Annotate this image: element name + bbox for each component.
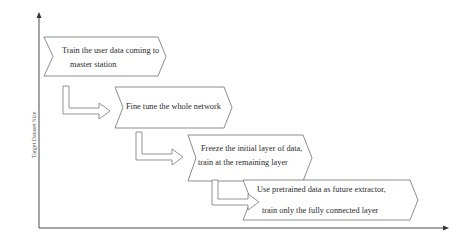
step-4-text-line1: Use pretrained data as future extractor, — [257, 186, 386, 194]
diagram-graphics — [0, 0, 465, 244]
step-3-text-line1: Freeze the initial layer of data, — [201, 145, 302, 153]
step-3-text-line2: train at the remaining layer — [198, 159, 288, 167]
y-axis-label: Target Dataset Size — [31, 112, 37, 158]
step-1-text-line2: master station — [70, 61, 116, 69]
x-axis — [39, 226, 449, 231]
step-arrow-2 — [136, 132, 183, 165]
y-axis — [37, 12, 42, 228]
step-arrow-1 — [63, 86, 110, 119]
step-4-text-line2: train only the fully connected layer — [262, 207, 378, 215]
step-1-chevron — [44, 37, 166, 76]
step-2-text: Fine tune the whole network — [126, 103, 221, 111]
step-1-text-line1: Train the user data coming to — [62, 47, 159, 55]
